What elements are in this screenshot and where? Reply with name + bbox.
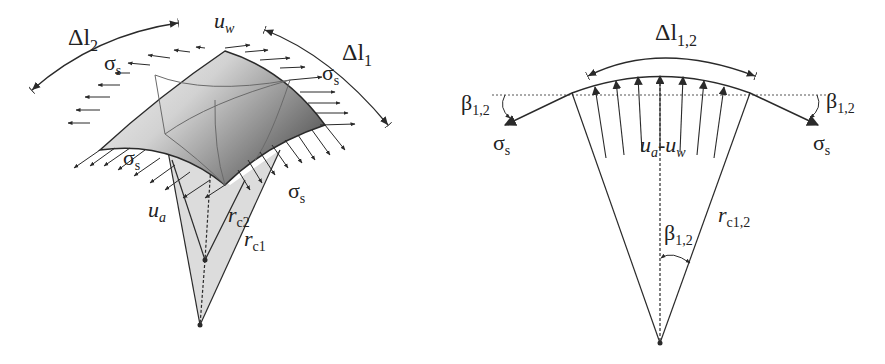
left-panel-3d-surface: Δl2 uw Δl1 σs σs σs σs ua rc2 rc1 bbox=[32, 8, 388, 328]
beta-angle-right bbox=[810, 95, 819, 118]
center-point-c1 bbox=[198, 323, 203, 328]
sigma-s-label-bottom-right: σs bbox=[288, 178, 305, 206]
ua-label: ua bbox=[148, 197, 166, 225]
dl2-label: Δl2 bbox=[68, 24, 98, 54]
beta-label-left: β1,2 bbox=[461, 90, 490, 118]
center-point bbox=[658, 341, 663, 346]
center-point-c2 bbox=[203, 258, 208, 263]
rc12-label: rc1,2 bbox=[718, 202, 750, 230]
dl12-dimension-arc bbox=[588, 58, 755, 76]
sigma-s-label-top-right: σs bbox=[322, 60, 339, 88]
right-panel-cross-section: Δl1,2 β1,2 β1,2 σs σs ua-uw β1,2 rc1,2 bbox=[461, 19, 855, 346]
dl12-label: Δl1,2 bbox=[655, 19, 697, 49]
dl1-label: Δl1 bbox=[342, 39, 372, 69]
sigma-s-label-right: σs bbox=[813, 130, 830, 158]
sigma-s-label-top-left: σs bbox=[104, 50, 121, 78]
interface-curve bbox=[505, 77, 818, 126]
sigma-s-label-left: σs bbox=[493, 130, 510, 158]
beta-label-apex: β1,2 bbox=[664, 220, 693, 248]
ua-minus-uw-label: ua-uw bbox=[640, 132, 686, 160]
beta-angle-left bbox=[502, 95, 510, 118]
beta-angle-apex bbox=[661, 255, 690, 263]
rc1-label: rc1 bbox=[244, 226, 266, 254]
figure-canvas: Δl2 uw Δl1 σs σs σs σs ua rc2 rc1 bbox=[0, 0, 885, 364]
uw-label: uw bbox=[214, 8, 235, 36]
beta-label-right: β1,2 bbox=[826, 88, 855, 116]
